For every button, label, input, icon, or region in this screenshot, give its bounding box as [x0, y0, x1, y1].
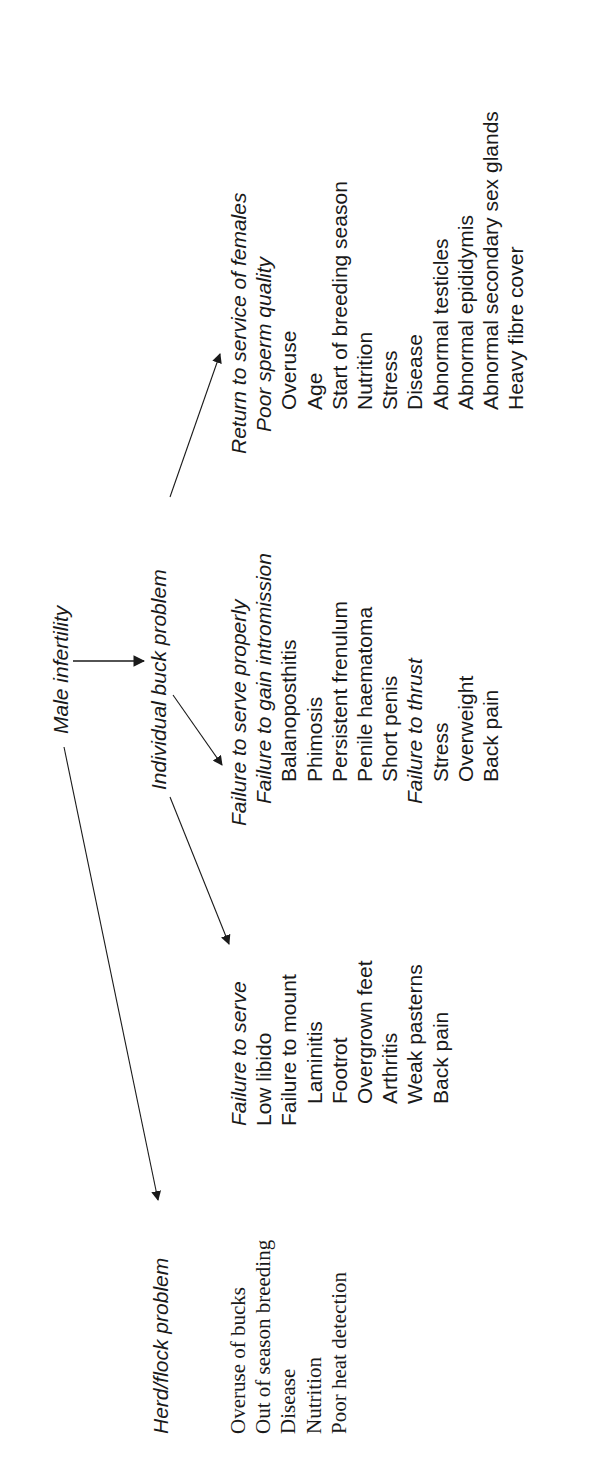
list-item: Back pain [428, 960, 453, 1126]
list-item: Abnormal epididymis [453, 111, 478, 454]
list-item: Heavy fibre cover [503, 111, 528, 454]
subheading: Poor sperm quality [251, 111, 276, 454]
list-item: Stress [428, 553, 453, 826]
list-item: Overgrown feet [352, 960, 377, 1126]
list-item: Stress [377, 111, 402, 454]
subheading: Failure to gain intromission [251, 553, 276, 826]
list-item: Persistent frenulum [327, 553, 352, 826]
arrow-to-failure-to-serve [170, 797, 229, 944]
list-item: Weak pasterns [402, 960, 427, 1126]
subheading: Failure to thrust [402, 553, 427, 826]
list-item: Out of season breeding [251, 1240, 276, 1434]
list-item: Start of breeding season [327, 111, 352, 454]
list-item: Footrot [327, 960, 352, 1126]
root-node-male-infertility: Male infertility [48, 606, 73, 734]
list-item: Phimosis [302, 553, 327, 826]
failure-to-serve-list: Failure to serve Low libidoFailure to mo… [226, 960, 453, 1126]
list-item: Overuse [276, 111, 301, 454]
list-item: Laminitis [302, 960, 327, 1126]
list-item: Nutrition [352, 111, 377, 454]
list-item: Abnormal testicles [428, 111, 453, 454]
return-to-service-heading: Return to service of females [226, 111, 251, 454]
return-to-service-list: Return to service of females Poor sperm … [226, 111, 528, 454]
list-item: Overuse of bucks [226, 1240, 251, 1434]
list-item: Penile haematoma [352, 553, 377, 826]
arrow-to-herd [64, 747, 158, 1200]
list-item: Failure to mount [276, 960, 301, 1126]
male-infertility-diagram: Male infertility Individual buck problem… [0, 0, 591, 1484]
list-item: Disease [276, 1240, 301, 1434]
herd-flock-causes-list: Overuse of bucksOut of season breedingDi… [226, 1240, 352, 1434]
list-item: Age [302, 111, 327, 454]
failure-to-serve-properly-heading: Failure to serve properly [226, 553, 251, 826]
list-item: Nutrition [302, 1240, 327, 1434]
failure-to-serve-heading: Failure to serve [226, 960, 251, 1126]
arrow-to-return-to-service [170, 354, 220, 497]
list-item: Short penis [377, 553, 402, 826]
list-item: Back pain [478, 553, 503, 826]
list-item: Low libido [251, 960, 276, 1126]
failure-to-serve-properly-list: Failure to serve properly Failure to gai… [226, 553, 503, 826]
list-item: Balanoposthitis [276, 553, 301, 826]
list-item: Disease [402, 111, 427, 454]
node-herd-flock-problem: Herd/flock problem [148, 1258, 173, 1434]
node-individual-buck-problem: Individual buck problem [146, 569, 171, 790]
arrow-to-failure-to-serve-properly [173, 695, 222, 765]
list-item: Arthritis [377, 960, 402, 1126]
list-item: Poor heat detection [327, 1240, 352, 1434]
list-item: Abnormal secondary sex glands [478, 111, 503, 454]
list-item: Overweight [453, 553, 478, 826]
